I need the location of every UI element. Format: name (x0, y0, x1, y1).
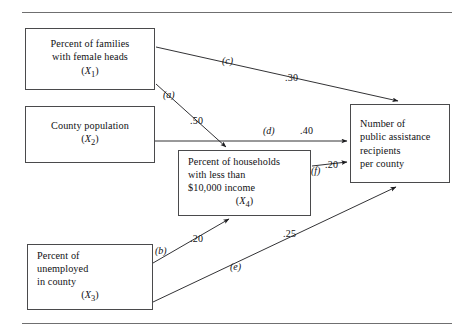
node-outcome: Number of public assistance recipients p… (350, 104, 450, 183)
path-coefficient-a: .50 (190, 116, 203, 126)
figure-canvas: Percent of families with female heads (X… (0, 0, 474, 334)
path-label-c: (c) (222, 56, 233, 66)
node-x2-line-0: County population (51, 119, 129, 132)
node-x3-line-2: in county (37, 275, 76, 288)
node-x1-line-1: with female heads (52, 50, 128, 63)
path-label-b: (b) (155, 246, 167, 256)
arrow-path-c (156, 47, 398, 101)
node-x3-line-1: unemployed (37, 262, 88, 275)
path-coefficient-e: .25 (283, 229, 296, 239)
path-label-a: (a) (163, 90, 175, 100)
node-x2-variable: (X2) (81, 132, 99, 149)
node-outcome-line-2: recipients (360, 144, 401, 157)
node-x4-line-2: $10,000 income (188, 181, 255, 194)
path-coefficient-d: .40 (300, 126, 313, 136)
path-label-d: (d) (263, 126, 275, 136)
node-x3-line-0: Percent of (37, 249, 80, 262)
node-x2: County population (X2) (25, 106, 155, 163)
node-x4-variable: (X4) (236, 194, 263, 211)
path-label-f: (f) (311, 166, 320, 176)
node-x1: Percent of families with female heads (X… (25, 28, 155, 90)
node-x1-line-0: Percent of families (51, 37, 130, 50)
node-x4: Percent of households with less than $10… (178, 150, 311, 216)
node-x1-variable: (X1) (81, 64, 99, 81)
path-coefficient-b: .20 (190, 234, 203, 244)
node-x3-variable: (X3) (81, 288, 108, 305)
node-x4-line-1: with less than (188, 168, 245, 181)
path-label-e: (e) (230, 262, 241, 272)
node-outcome-line-1: public assistance (360, 130, 430, 143)
path-coefficient-f: .20 (325, 160, 338, 170)
path-coefficient-c: .30 (285, 73, 298, 83)
node-outcome-line-3: per county (360, 157, 404, 170)
node-x4-line-0: Percent of households (188, 155, 280, 168)
node-x3: Percent of unemployed in county (X3) (27, 244, 153, 310)
node-outcome-line-0: Number of (360, 117, 405, 130)
